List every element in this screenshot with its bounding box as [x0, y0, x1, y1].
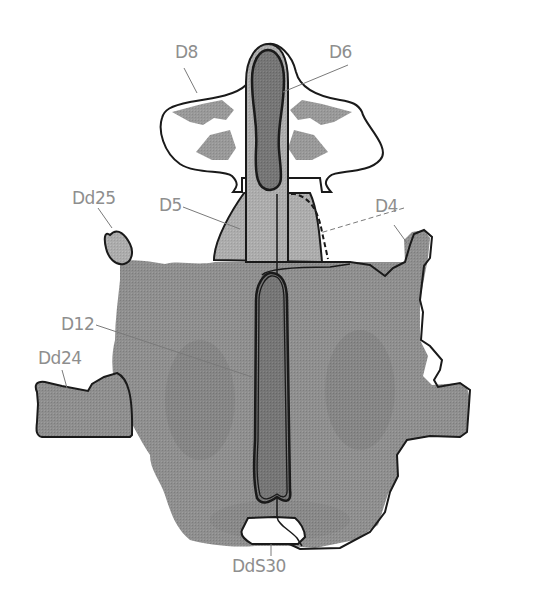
dds30-area [242, 517, 305, 544]
d6-area [246, 44, 288, 262]
label-dds30: DdS30 [232, 558, 286, 575]
leader-dd25 [98, 208, 112, 228]
dd25-area [105, 231, 132, 264]
leader-d4-tick [394, 225, 407, 243]
label-d5: D5 [159, 197, 182, 214]
label-d6: D6 [329, 44, 352, 61]
inkblot-svg [0, 0, 556, 604]
d12-area [254, 273, 290, 503]
leader-d8 [184, 68, 197, 93]
dd24-area [36, 373, 132, 437]
inkblot-diagram: D8 D6 Dd25 D5 D4 D12 Dd24 DdS30 [0, 0, 556, 604]
label-d12: D12 [61, 316, 94, 333]
label-d4: D4 [375, 198, 398, 215]
label-d8: D8 [175, 44, 198, 61]
label-dd25: Dd25 [72, 190, 116, 207]
label-dd24: Dd24 [38, 350, 82, 367]
inkblot-body [112, 230, 470, 548]
